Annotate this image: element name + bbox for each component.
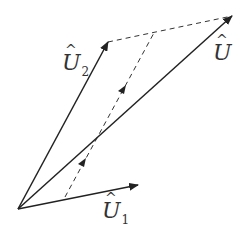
label-u2-subscript: 2 bbox=[82, 65, 90, 79]
hat-symbol: ^ bbox=[65, 43, 77, 57]
hat-symbol: ^ bbox=[216, 33, 228, 47]
vector-diagram-canvas bbox=[0, 0, 245, 229]
label-u2: ^U2 bbox=[62, 52, 88, 74]
label-u1-subscript: 1 bbox=[122, 213, 130, 227]
dashed-top-line bbox=[108, 16, 232, 42]
hat-symbol: ^ bbox=[105, 191, 117, 205]
vector-diagram: ^U2 ^U ^U1 bbox=[0, 0, 245, 229]
label-u1: ^U1 bbox=[102, 200, 128, 222]
dashed-arrowhead-lower bbox=[78, 158, 86, 167]
vector-u bbox=[18, 16, 232, 209]
label-u: ^U bbox=[213, 42, 232, 64]
dashed-arrowhead-upper bbox=[118, 85, 126, 94]
